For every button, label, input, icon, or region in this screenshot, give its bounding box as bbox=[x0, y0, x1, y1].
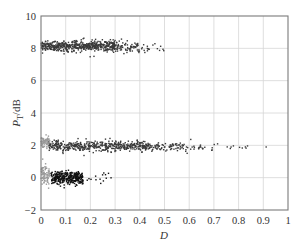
series-cluster-2dB bbox=[48, 138, 267, 156]
y-tick-label: 8 bbox=[31, 43, 36, 54]
x-tick-label: 1 bbox=[285, 215, 290, 226]
x-tick-label: 0 bbox=[38, 215, 43, 226]
x-tick-label: 0.7 bbox=[207, 215, 220, 226]
series-cluster-8dB bbox=[41, 38, 165, 58]
x-tick-label: 0.3 bbox=[109, 215, 122, 226]
x-axis-ticks: 00.10.20.30.40.50.60.70.80.91 bbox=[38, 215, 290, 226]
x-tick-label: 0.1 bbox=[59, 215, 72, 226]
y-tick-label: 6 bbox=[31, 75, 36, 86]
y-tick-label: 4 bbox=[31, 108, 37, 119]
x-tick-label: 0.4 bbox=[133, 215, 147, 226]
y-axis-ticks: −20246810 bbox=[25, 11, 37, 216]
y-tick-label: 10 bbox=[26, 11, 37, 22]
x-axis-label: D bbox=[159, 229, 168, 241]
x-tick-label: 0.8 bbox=[232, 215, 245, 226]
y-axis-label: PT/dB bbox=[10, 99, 25, 128]
series-cluster-0dB bbox=[50, 170, 111, 189]
x-tick-label: 0.2 bbox=[84, 215, 97, 226]
y-tick-label: 2 bbox=[31, 140, 36, 151]
scatter-chart: 00.10.20.30.40.50.60.70.80.91 −20246810 … bbox=[0, 0, 301, 249]
y-tick-label: 0 bbox=[31, 172, 36, 183]
x-tick-label: 0.6 bbox=[183, 215, 196, 226]
y-tick-label: −2 bbox=[25, 205, 36, 216]
x-tick-label: 0.9 bbox=[257, 215, 270, 226]
x-tick-label: 0.5 bbox=[158, 215, 171, 226]
y-axis-label-unit: /dB bbox=[10, 99, 22, 115]
